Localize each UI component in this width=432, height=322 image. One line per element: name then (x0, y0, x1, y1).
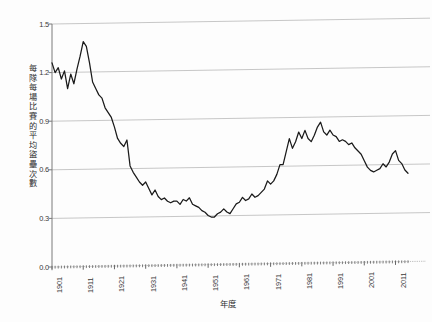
y-axis-title: 每隊每場比賽的平均盜壘次數 (26, 64, 40, 189)
y-axis-title-char: 隊 (26, 74, 40, 84)
y-axis-title-char: 每 (26, 83, 40, 93)
y-axis-title-char: 盜 (26, 150, 40, 160)
x-tick-label: 1921 (117, 276, 126, 292)
x-tick-label: 1971 (274, 274, 283, 290)
y-axis-title-char: 次 (26, 170, 40, 180)
y-axis-title-char: 比 (26, 102, 40, 112)
x-tick-label: 1951 (211, 275, 220, 291)
y-axis-title-char: 的 (26, 122, 40, 132)
x-axis-title: 年度 (0, 297, 432, 309)
x-tick-label: 1991 (336, 273, 345, 289)
x-tick-label: 1941 (180, 275, 189, 291)
x-tick-label: 2011 (399, 272, 408, 288)
y-axis-title-char: 場 (26, 93, 40, 103)
x-tick-label: 1911 (86, 277, 95, 293)
x-tick-label: 1901 (55, 277, 64, 293)
x-tick-label: 1961 (242, 274, 251, 290)
y-axis-title-char: 均 (26, 141, 40, 151)
x-axis-tick-labels: 1901191119211931194119511961197119811991… (0, 0, 432, 322)
x-tick-label: 1931 (149, 276, 158, 292)
x-tick-label: 2001 (367, 272, 376, 288)
y-axis-title-char: 每 (26, 64, 40, 74)
y-axis-title-char: 數 (26, 179, 40, 189)
chart-figure: 0.00.30.60.91.21.5 190119111921193119411… (0, 0, 432, 322)
x-tick-label: 1981 (305, 273, 314, 289)
y-axis-title-char: 壘 (26, 160, 40, 170)
y-axis-title-char: 賽 (26, 112, 40, 122)
y-axis-title-char: 平 (26, 131, 40, 141)
